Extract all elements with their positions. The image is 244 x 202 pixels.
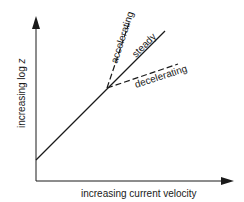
y-axis-label-text: increasing log xyxy=(16,64,27,128)
steady-label: steady xyxy=(130,31,159,60)
diagram-canvas: accelerating steady decelerating increas… xyxy=(0,0,244,202)
x-axis-arrow-icon xyxy=(221,177,234,185)
y-axis-label: increasing log z xyxy=(16,59,27,128)
y-axis-label-var: z xyxy=(16,59,27,65)
x-axis-label: increasing current velocity xyxy=(81,188,197,199)
decelerating-label: decelerating xyxy=(133,63,188,90)
accelerating-label: accelerating xyxy=(108,10,135,65)
y-axis-arrow-icon xyxy=(32,16,40,29)
